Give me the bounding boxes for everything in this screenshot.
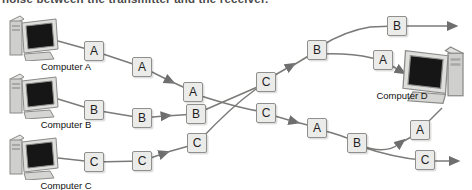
packet-box-a: A — [183, 82, 203, 102]
computer-icon — [6, 130, 62, 180]
computer-d: Computer D — [398, 40, 468, 108]
packet-box-a: A — [410, 120, 430, 140]
packet-box-c: C — [256, 103, 276, 123]
computer-icon — [6, 69, 62, 119]
figure-canvas: noise between the transmitter and the re… — [0, 0, 472, 190]
packet-box-b: B — [132, 108, 152, 128]
computer-d-label: Computer D — [372, 90, 432, 101]
packet-box-c: C — [132, 151, 152, 171]
packet-box-a: A — [132, 57, 152, 77]
packet-box-c: C — [415, 150, 435, 170]
computer-icon — [6, 11, 62, 61]
computer-b-label: Computer B — [36, 119, 96, 130]
packet-box-b: B — [84, 100, 104, 120]
computer-c-label: Computer C — [36, 180, 96, 190]
computer-c: Computer C — [6, 130, 62, 184]
packet-box-b: B — [347, 133, 367, 153]
packet-box-a: A — [84, 41, 104, 61]
packet-box-a: A — [373, 50, 393, 70]
packet-box-b: B — [307, 40, 327, 60]
packet-box-b: B — [387, 16, 407, 36]
packet-box-c: C — [187, 133, 207, 153]
computer-b: Computer B — [6, 69, 62, 123]
packet-box-b: B — [186, 104, 206, 124]
packet-box-a: A — [307, 118, 327, 138]
packet-box-c: C — [84, 152, 104, 172]
packet-box-c: C — [256, 72, 276, 92]
computer-a: Computer A — [6, 11, 62, 65]
